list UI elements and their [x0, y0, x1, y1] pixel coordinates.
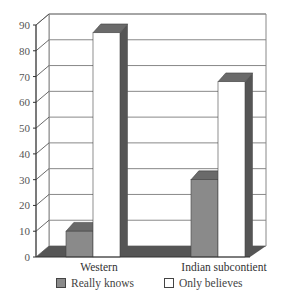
bar-side	[120, 24, 128, 257]
bar-only-believes-0	[93, 24, 128, 257]
legend-item-really-knows: Really knows	[56, 277, 134, 289]
legend-swatch-really-knows	[56, 278, 66, 288]
y-tick-label: 90	[19, 19, 31, 31]
bar-front	[218, 82, 245, 257]
y-tick-label: 40	[19, 148, 31, 160]
y-tick-label: 0	[25, 251, 31, 263]
y-tick-label: 70	[19, 71, 31, 83]
bar-front	[66, 231, 93, 257]
y-tick-label: 60	[19, 96, 31, 108]
legend-label: Really knows	[71, 277, 134, 289]
y-tick-label: 10	[19, 225, 31, 237]
bar-front	[93, 33, 120, 257]
y-tick-label: 50	[19, 122, 31, 134]
side-wall	[36, 14, 49, 257]
category-label: Indian subcontient	[181, 261, 267, 273]
legend-item-only-believes: Only believes	[164, 277, 243, 289]
bar-front	[191, 180, 218, 257]
category-label: Western	[80, 261, 118, 273]
y-tick-label: 30	[19, 174, 31, 186]
bar-chart: 0102030405060708090 WesternIndian subcon…	[0, 0, 282, 300]
legend-swatch-only-believes	[164, 278, 174, 288]
x-axis-labels: WesternIndian subcontient	[80, 261, 267, 273]
legend-label: Only believes	[179, 277, 243, 289]
y-tick-label: 80	[19, 45, 31, 57]
bar-side	[245, 73, 253, 257]
y-tick-label: 20	[19, 199, 31, 211]
legend: Really knows Only believes	[56, 277, 243, 289]
bar-only-believes-1	[218, 73, 253, 257]
